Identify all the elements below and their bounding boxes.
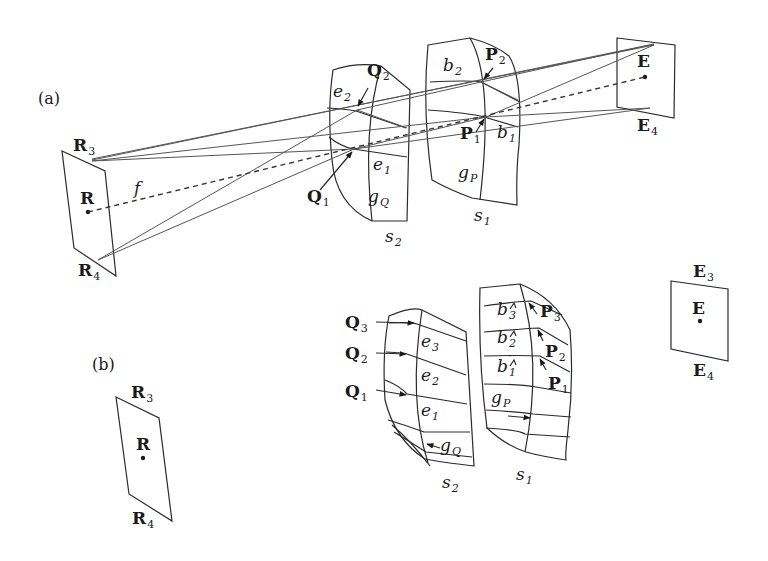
optics-diagram: (a) R3 R R4 f E E4 Q2 Q1 e2 e1 gQ s2 P2 … xyxy=(0,0,768,561)
label-gP-b: gP xyxy=(491,389,510,409)
label-e1-b: e1 xyxy=(421,402,439,422)
label-P1-a: P1 xyxy=(460,125,481,145)
emitter-center-dot-b xyxy=(698,319,702,323)
diagram-canvas xyxy=(0,0,768,561)
label-P1-b: P1 xyxy=(548,375,569,395)
label-P2-a: P2 xyxy=(485,46,506,66)
label-R4-b: R4 xyxy=(132,510,154,530)
focal-axis xyxy=(88,77,645,212)
label-E-a: E xyxy=(637,53,650,70)
label-b1-b: b1 xyxy=(497,358,516,378)
label-gQ-b: gQ xyxy=(440,437,461,457)
label-E4-a: E4 xyxy=(637,117,658,137)
label-Q1-a: Q1 xyxy=(307,188,330,208)
label-b2-b: b2 xyxy=(497,329,516,349)
label-R3-b: R3 xyxy=(131,384,153,404)
receiver-center-dot-b xyxy=(141,456,145,460)
label-e2-a: e2 xyxy=(333,83,351,103)
label-b2-a: b2 xyxy=(443,57,462,77)
label-gQ-a: gQ xyxy=(368,188,389,208)
panel-a-label: (a) xyxy=(38,91,60,107)
label-E-b: E xyxy=(692,300,705,317)
label-e3-b: e3 xyxy=(421,333,439,353)
label-Q3-b: Q3 xyxy=(345,314,368,334)
label-R4-a: R4 xyxy=(78,262,100,282)
label-b1-a: b1 xyxy=(497,124,516,144)
label-e1-a: e1 xyxy=(373,156,391,176)
label-R3-a: R3 xyxy=(73,137,95,157)
label-E3-b: E3 xyxy=(693,263,714,283)
label-s2-a: s2 xyxy=(385,228,402,248)
label-P2-b: P2 xyxy=(545,343,566,363)
label-s1-a: s1 xyxy=(474,207,491,227)
label-E4-b: E4 xyxy=(693,362,714,382)
label-f: f xyxy=(134,180,140,197)
label-gP-a: gP xyxy=(458,164,477,184)
label-s2-b: s2 xyxy=(442,474,459,494)
label-R-a: R xyxy=(80,190,94,207)
label-R-b: R xyxy=(136,436,150,453)
label-Q1-b: Q1 xyxy=(345,383,368,403)
label-P3-b: P3 xyxy=(540,303,561,323)
label-s1-b: s1 xyxy=(516,466,533,486)
panel-b-label: (b) xyxy=(92,357,115,373)
label-b3-b: b3 xyxy=(497,301,516,321)
label-Q2-a: Q2 xyxy=(367,62,390,82)
label-e2-b: e2 xyxy=(421,367,439,387)
label-Q2-b: Q2 xyxy=(345,345,368,365)
